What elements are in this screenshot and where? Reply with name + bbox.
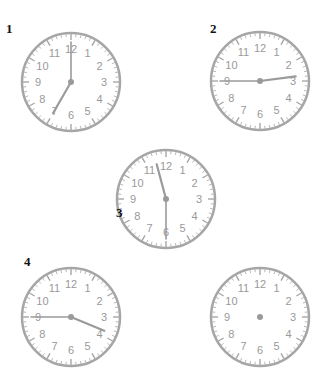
numeral-9: 9: [130, 193, 136, 205]
numeral-11: 11: [49, 282, 60, 294]
numeral-8: 8: [228, 92, 234, 104]
numeral-7: 7: [146, 222, 152, 234]
numeral-11: 11: [238, 46, 249, 58]
clock-face-5: 121234567891011: [207, 264, 313, 370]
numeral-6: 6: [257, 108, 263, 120]
numeral-1: 1: [84, 282, 90, 294]
numeral-3: 3: [290, 311, 296, 323]
numeral-6: 6: [68, 344, 74, 356]
center-pin: [257, 78, 263, 84]
numeral-3: 3: [196, 193, 202, 205]
clock-number-label: 3: [116, 205, 123, 221]
clock-number-label: 1: [6, 21, 13, 37]
numeral-2: 2: [286, 59, 292, 71]
numeral-5: 5: [273, 104, 279, 116]
numeral-4: 4: [286, 92, 292, 104]
numeral-11: 11: [144, 164, 155, 176]
numeral-12: 12: [65, 278, 77, 290]
numeral-7: 7: [240, 340, 246, 352]
clock-number-label: 4: [24, 254, 31, 270]
numeral-8: 8: [134, 210, 140, 222]
numeral-4: 4: [286, 328, 292, 340]
numeral-12: 12: [160, 160, 172, 172]
center-pin: [68, 79, 74, 85]
numeral-1: 1: [179, 164, 185, 176]
numeral-1: 1: [273, 46, 279, 58]
numeral-7: 7: [240, 104, 246, 116]
numeral-9: 9: [35, 76, 41, 88]
numeral-11: 11: [238, 282, 249, 294]
numeral-6: 6: [68, 109, 74, 121]
numeral-4: 4: [192, 210, 198, 222]
numeral-7: 7: [51, 340, 57, 352]
numeral-1: 1: [273, 282, 279, 294]
numeral-11: 11: [49, 47, 60, 59]
numeral-5: 5: [84, 340, 90, 352]
numeral-5: 5: [273, 340, 279, 352]
numeral-9: 9: [224, 311, 230, 323]
numeral-2: 2: [97, 295, 103, 307]
numeral-3: 3: [101, 76, 107, 88]
numeral-8: 8: [39, 328, 45, 340]
numeral-2: 2: [286, 295, 292, 307]
clock-number-label: 2: [210, 21, 217, 37]
clock-face-4: 121234567891011: [18, 264, 124, 370]
clock-face-2: 121234567891011: [207, 28, 313, 134]
numeral-3: 3: [101, 311, 107, 323]
numeral-1: 1: [84, 47, 90, 59]
numeral-10: 10: [131, 177, 143, 189]
center-pin: [68, 314, 74, 320]
numeral-2: 2: [97, 60, 103, 72]
numeral-8: 8: [39, 93, 45, 105]
numeral-2: 2: [192, 177, 198, 189]
numeral-5: 5: [84, 105, 90, 117]
center-pin: [163, 196, 169, 202]
numeral-10: 10: [36, 295, 48, 307]
numeral-10: 10: [36, 60, 48, 72]
numeral-5: 5: [179, 222, 185, 234]
numeral-10: 10: [225, 59, 237, 71]
numeral-12: 12: [254, 42, 266, 54]
clock-face-1: 121234567891011: [18, 29, 124, 135]
numeral-8: 8: [228, 328, 234, 340]
center-pin: [257, 314, 263, 320]
numeral-6: 6: [257, 344, 263, 356]
clock-face-3: 121234567891011: [113, 146, 219, 252]
numeral-10: 10: [225, 295, 237, 307]
numeral-12: 12: [254, 278, 266, 290]
numeral-4: 4: [97, 93, 103, 105]
